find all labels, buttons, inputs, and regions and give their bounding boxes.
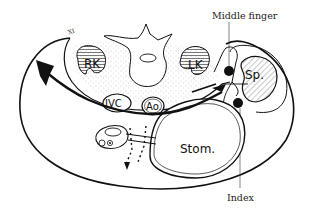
stomach xyxy=(150,99,245,178)
aorta-label: Ao. xyxy=(146,101,162,112)
vertebral-foramen xyxy=(140,54,156,62)
ivc-label: IVC xyxy=(105,98,122,109)
dotted-path-right xyxy=(138,126,146,162)
index-finger-tip xyxy=(233,98,243,108)
middle-finger-label: Middle finger xyxy=(212,10,277,21)
arrow-tail xyxy=(36,60,54,86)
spleen-label: Sp. xyxy=(245,68,264,82)
rib-mark: XI xyxy=(67,27,76,36)
middle-finger-tip xyxy=(224,66,234,76)
left-kidney-label: LK xyxy=(188,58,203,72)
stomach-label: Stom. xyxy=(180,142,215,156)
index-label: Index xyxy=(227,192,254,203)
right-kidney-label: RK xyxy=(84,57,100,71)
